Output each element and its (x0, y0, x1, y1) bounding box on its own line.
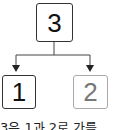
right-part-number: 2 (83, 79, 97, 105)
arrow-down-icon (12, 65, 20, 72)
root-number: 3 (47, 10, 61, 36)
right-part-box: 2 (73, 75, 108, 109)
left-part-box: 1 (2, 75, 36, 109)
left-part-number: 1 (12, 79, 26, 105)
arrow-down-icon (86, 65, 94, 72)
root-number-box: 3 (36, 3, 73, 42)
caption-text: 3은 1과 2로 가를 (0, 117, 97, 130)
